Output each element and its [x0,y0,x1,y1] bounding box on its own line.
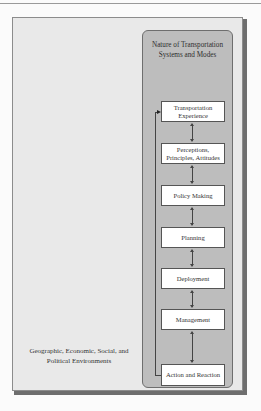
environment-label: Geographic, Economic, Social, and Politi… [20,346,138,366]
bidirectional-arrow-icon [192,124,193,141]
bidirectional-arrow-icon [192,291,193,307]
stage-management: Management [161,309,225,330]
stage-deployment: Deployment [161,268,225,289]
stage-action-and-reaction: Action and Reaction [161,364,225,386]
bidirectional-arrow-icon [192,208,193,225]
feedback-line-vertical [155,112,156,376]
stage-policy-making: Policy Making [161,185,225,206]
top-rule [0,3,261,4]
bidirectional-arrow-icon [192,332,193,362]
stage-perceptions: Perceptions, Principles, Attitudes [161,143,225,164]
stage-planning: Planning [161,227,225,248]
bidirectional-arrow-icon [192,166,193,183]
stage-transportation-experience: Transportation Experience [161,101,225,122]
bidirectional-arrow-icon [192,250,193,266]
inner-panel-title: Nature of Transportation Systems and Mod… [142,40,233,60]
